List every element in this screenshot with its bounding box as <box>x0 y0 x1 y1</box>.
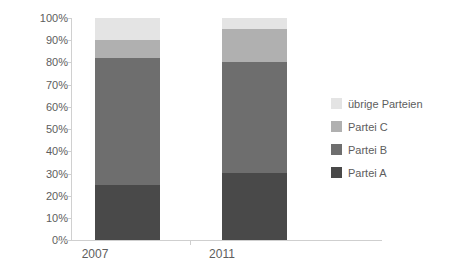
y-tick-label: 60% <box>8 102 68 113</box>
legend: übrige Parteien Partei C Partei B Partei… <box>331 92 449 184</box>
bar-segment-partei-c <box>222 29 287 62</box>
y-tick-label: 20% <box>8 191 68 202</box>
legend-item-partei-c[interactable]: Partei C <box>331 115 449 138</box>
bar-segment-partei-b <box>95 58 160 185</box>
y-tick-label: 70% <box>8 80 68 91</box>
legend-label: übrige Parteien <box>348 98 423 110</box>
bar-segment-partei-a <box>95 185 160 241</box>
y-tick-label: 80% <box>8 57 68 68</box>
x-axis-category-divider <box>190 240 191 245</box>
bar-segment-partei-a <box>222 173 287 240</box>
legend-swatch-icon <box>331 98 342 109</box>
y-tick-label: 100% <box>8 13 68 24</box>
legend-label: Partei B <box>348 144 387 156</box>
y-axis: 100% 90% 80% 70% 60% 50% 40% 30% 20% 10%… <box>0 0 68 277</box>
x-tick-label-2011: 2011 <box>177 247 267 261</box>
chart-container: 100% 90% 80% 70% 60% 50% 40% 30% 20% 10%… <box>0 0 451 277</box>
plot-area <box>72 18 315 240</box>
y-tick-label: 30% <box>8 169 68 180</box>
legend-label: Partei C <box>348 121 388 133</box>
bar-2011 <box>222 18 287 240</box>
legend-item-uebrige-parteien[interactable]: übrige Parteien <box>331 92 449 115</box>
bar-segment-uebrige-parteien <box>222 18 287 29</box>
legend-label: Partei A <box>348 167 387 179</box>
legend-item-partei-b[interactable]: Partei B <box>331 138 449 161</box>
legend-swatch-icon <box>331 121 342 132</box>
y-tick-label: 10% <box>8 213 68 224</box>
x-axis-line <box>57 240 382 241</box>
bar-segment-partei-c <box>95 40 160 58</box>
y-tick-label: 90% <box>8 35 68 46</box>
bar-2007 <box>95 18 160 240</box>
y-tick-label: 50% <box>8 124 68 135</box>
x-tick-label-2007: 2007 <box>50 247 140 261</box>
legend-swatch-icon <box>331 144 342 155</box>
y-tick-label: 40% <box>8 146 68 157</box>
bar-segment-uebrige-parteien <box>95 18 160 40</box>
legend-swatch-icon <box>331 167 342 178</box>
legend-item-partei-a[interactable]: Partei A <box>331 161 449 184</box>
bar-segment-partei-b <box>222 62 287 173</box>
